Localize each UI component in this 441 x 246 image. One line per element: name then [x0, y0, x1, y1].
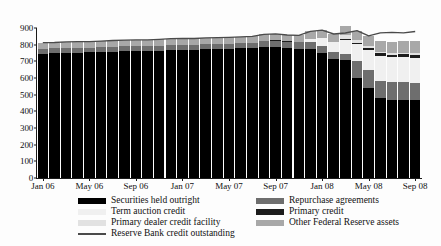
- bar-segment-sec: [398, 100, 409, 178]
- bar-segment-rp: [72, 48, 83, 53]
- y-axis-tick-mark: [34, 94, 37, 95]
- bar-segment-rp: [107, 47, 118, 52]
- bar-segment-pdcf: [387, 53, 398, 54]
- bar-segment-rp: [96, 47, 107, 52]
- bar-segment-ofra: [259, 34, 270, 40]
- x-axis-tick-label: May 08: [355, 181, 383, 191]
- x-axis-tick-label: Sep 08: [403, 181, 428, 191]
- y-axis-tick-mark: [34, 128, 37, 129]
- bar-segment-sec: [235, 48, 246, 178]
- bar-segment-pc: [410, 55, 421, 58]
- y-axis-tick-label: 200: [20, 140, 33, 149]
- x-axis-tick-mark: [43, 178, 44, 181]
- bar-segment-rp: [84, 48, 95, 53]
- bar-segment-ofra: [96, 41, 107, 47]
- bar-segment-ofra: [154, 39, 165, 45]
- x-axis-tick-mark: [322, 178, 323, 181]
- chart-figure: 0100200300400500600700800900 Jan 06May 0…: [0, 0, 441, 246]
- x-axis-tick-label: Jan 08: [310, 181, 333, 191]
- bar-column: [317, 30, 328, 178]
- bar-segment-ofra: [142, 40, 153, 46]
- bar-column: [200, 38, 211, 178]
- bar-segment-tac: [328, 42, 339, 52]
- bar-segment-sec: [200, 49, 211, 178]
- bar-segment-ofra: [375, 41, 386, 51]
- bar-segment-ofra: [340, 26, 351, 35]
- bar-segment-ofra: [107, 41, 118, 47]
- bar-column: [166, 39, 177, 178]
- x-axis-tick-mark: [182, 178, 183, 181]
- bar-segment-rp: [294, 42, 305, 49]
- bar-column: [270, 34, 281, 178]
- bar-column: [410, 41, 421, 178]
- bar-segment-ofra: [61, 42, 72, 48]
- bar-segment-sec: [61, 53, 72, 178]
- legend-item: Securities held outright: [78, 195, 248, 206]
- y-axis-tick-label: 900: [20, 24, 33, 33]
- x-axis-tick-mark: [369, 178, 370, 181]
- bar-segment-sec: [177, 50, 188, 178]
- legend-item-label: Other Federal Reserve assets: [289, 217, 399, 228]
- y-axis-tick-label: 300: [20, 124, 33, 133]
- legend-swatch-icon: [256, 220, 284, 226]
- bar-segment-sec: [340, 60, 351, 178]
- x-axis-tick-label: Sep 06: [124, 181, 149, 191]
- legend-swatch-icon: [78, 198, 106, 204]
- bar-segment-ofra: [410, 41, 421, 54]
- bar-segment-sec: [189, 50, 200, 178]
- bar-segment-rp: [189, 45, 200, 50]
- bar-segment-rp: [317, 46, 328, 53]
- bar-segment-rp: [119, 46, 130, 51]
- bar-segment-pdcf: [363, 46, 374, 48]
- bar-segment-sec: [96, 52, 107, 178]
- bar-column: [142, 40, 153, 178]
- bar-column: [363, 36, 374, 178]
- bar-segment-sec: [131, 51, 142, 178]
- bar-column: [212, 38, 223, 178]
- bar-segment-sec: [224, 49, 235, 178]
- bar-segment-tac: [317, 38, 328, 46]
- bar-segment-ofra: [224, 37, 235, 43]
- bar-segment-ofra: [119, 40, 130, 46]
- bar-column: [387, 42, 398, 178]
- bar-segment-pc: [398, 54, 409, 57]
- bar-segment-sec: [84, 52, 95, 178]
- bar-segment-sec: [282, 48, 293, 178]
- y-axis-tick-mark: [34, 161, 37, 162]
- bar-segment-sec: [317, 53, 328, 178]
- bar-column: [294, 35, 305, 178]
- y-axis-tick-mark: [34, 178, 37, 179]
- bar-column: [352, 31, 363, 178]
- bar-segment-rp: [200, 44, 211, 49]
- bar-segment-rp: [340, 54, 351, 60]
- legend-item: Primary dealer credit facility: [78, 217, 248, 228]
- bar-column: [49, 43, 60, 179]
- bar-segment-sec: [72, 53, 83, 178]
- bar-segment-ofra: [131, 40, 142, 46]
- bar-column: [177, 39, 188, 179]
- legend-item: Term auction credit: [78, 206, 248, 217]
- y-axis-tick-mark: [34, 78, 37, 79]
- bar-segment-ofra: [317, 30, 328, 38]
- bar-segment-ofra: [49, 43, 60, 49]
- bar-segment-sec: [212, 49, 223, 178]
- bar-segment-pc: [352, 43, 363, 45]
- bar-segment-rp: [247, 43, 258, 48]
- y-axis-tick-label: 600: [20, 74, 33, 83]
- bar-segment-rp: [387, 82, 398, 100]
- bar-segment-sec: [154, 51, 165, 179]
- bar-column: [340, 26, 351, 178]
- bar-segment-sec: [119, 51, 130, 178]
- legend-item-label: Primary dealer credit facility: [111, 217, 220, 228]
- bar-segment-tac: [305, 39, 316, 42]
- bar-segment-tac: [363, 50, 374, 71]
- bar-segment-pc: [340, 39, 351, 40]
- bar-column: [38, 43, 49, 178]
- bar-column: [259, 34, 270, 178]
- bar-segment-pdcf: [352, 40, 363, 43]
- bar-column: [154, 39, 165, 178]
- bar-segment-rp: [352, 61, 363, 78]
- bar-segment-sec: [305, 49, 316, 178]
- bar-segment-sec: [247, 48, 258, 178]
- bar-segment-ofra: [247, 36, 258, 42]
